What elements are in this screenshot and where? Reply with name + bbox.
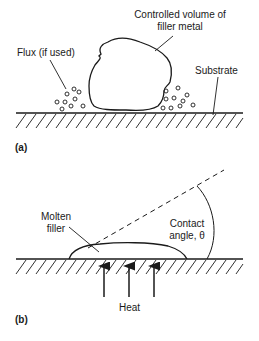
contact-label-line1: Contact — [166, 218, 208, 230]
heat-arrows — [104, 266, 154, 297]
molten-label-line2: filler — [38, 223, 74, 235]
filler-metal-blob — [89, 38, 171, 110]
molten-filler-droplet — [69, 243, 187, 259]
contact-angle-label: Contact angle, θ — [166, 218, 208, 242]
panel-a-label: (a) — [15, 142, 27, 153]
substrate-leader — [213, 77, 218, 115]
flux-particles-right — [161, 86, 195, 110]
contact-label-line2: angle, θ — [166, 230, 208, 242]
substrate-hatch-a — [16, 114, 243, 128]
flux-leader — [50, 60, 66, 89]
filler-leader — [155, 36, 173, 51]
flux-label: Flux (if used) — [17, 47, 75, 59]
molten-filler-label: Molten filler — [38, 211, 74, 235]
heat-label: Heat — [119, 302, 140, 314]
panel-b-label: (b) — [15, 314, 28, 325]
molten-label-line1: Molten — [38, 211, 74, 223]
substrate-label: Substrate — [195, 65, 238, 77]
filler-label-line1: Controlled volume of — [130, 9, 230, 21]
filler-metal-label: Controlled volume of filler metal — [130, 9, 230, 33]
flux-particles-left — [55, 87, 85, 111]
filler-label-line2: filler metal — [130, 21, 230, 33]
